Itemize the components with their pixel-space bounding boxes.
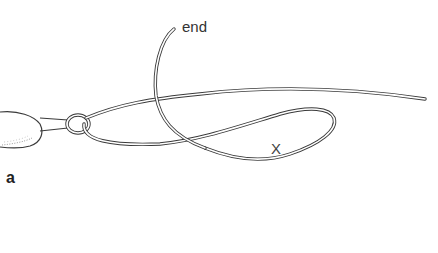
weight-icon: [0, 112, 68, 148]
main-line: [86, 89, 425, 118]
knot-diagram: [0, 0, 438, 253]
loop-marker-label: X: [271, 141, 281, 156]
working-end: [155, 29, 205, 148]
end-label: end: [182, 19, 207, 34]
line-loop: [84, 109, 335, 159]
panel-label: a: [6, 170, 15, 186]
